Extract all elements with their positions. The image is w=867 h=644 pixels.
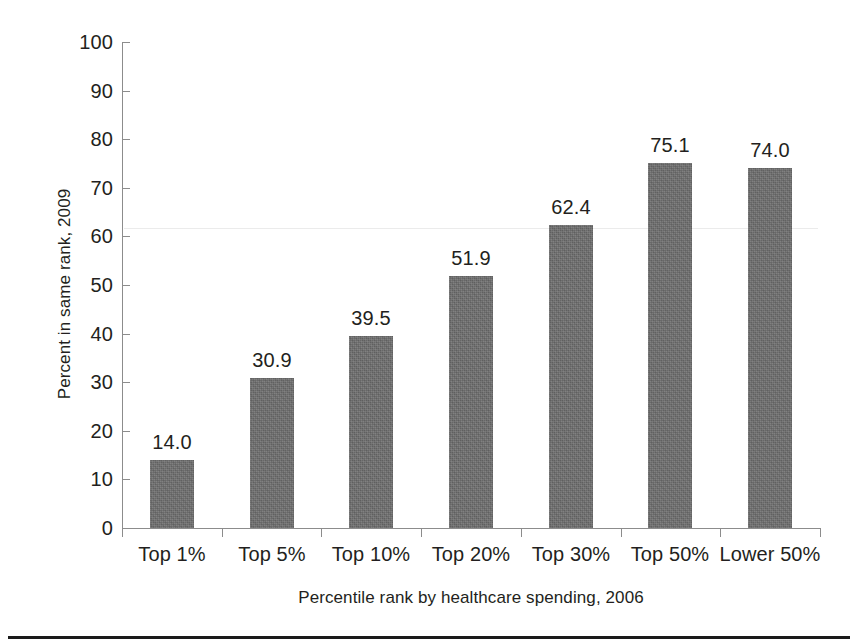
x-axis-tick	[421, 529, 422, 537]
x-axis-tick	[122, 529, 123, 537]
y-axis-tick	[123, 42, 130, 43]
y-axis-tick	[123, 528, 130, 529]
bottom-rule	[8, 636, 850, 639]
bar	[150, 460, 194, 528]
x-axis-tick	[720, 529, 721, 537]
bar-value-label: 14.0	[127, 432, 217, 452]
y-axis-tick-label: 90	[23, 81, 113, 101]
gridline-artifact	[124, 228, 818, 229]
bar	[250, 378, 294, 528]
y-axis-tick-label: 80	[23, 129, 113, 149]
y-axis-tick-label: 50	[23, 275, 113, 295]
x-axis-category-label: Lower 50%	[710, 543, 830, 565]
bar-value-label: 39.5	[326, 308, 416, 328]
y-axis-tick-label: 30	[23, 372, 113, 392]
bar	[648, 163, 692, 528]
y-axis-tick	[123, 188, 130, 189]
x-axis-title: Percentile rank by healthcare spending, …	[122, 588, 820, 608]
bar-chart-figure: Percent in same rank, 2009 0102030405060…	[0, 0, 867, 644]
x-axis-tick	[521, 529, 522, 537]
bar	[549, 225, 593, 528]
y-axis-tick-label: 70	[23, 178, 113, 198]
bar	[748, 168, 792, 528]
bar	[449, 276, 493, 528]
y-axis-tick	[123, 382, 130, 383]
x-axis-tick	[820, 529, 821, 537]
y-axis-tick-label: 100	[23, 32, 113, 52]
y-axis-tick	[123, 285, 130, 286]
x-axis-line	[122, 528, 821, 529]
bar-value-label: 30.9	[227, 350, 317, 370]
bar-value-label: 75.1	[625, 135, 715, 155]
x-axis-tick	[621, 529, 622, 537]
y-axis-tick-label: 60	[23, 226, 113, 246]
y-axis-tick	[123, 139, 130, 140]
x-axis-tick	[222, 529, 223, 537]
y-axis-tick-label: 0	[23, 518, 113, 538]
bar-value-label: 62.4	[526, 197, 616, 217]
bar-value-label: 51.9	[426, 248, 516, 268]
x-axis-tick	[321, 529, 322, 537]
y-axis-tick	[123, 334, 130, 335]
bar-value-label: 74.0	[725, 140, 815, 160]
y-axis-tick-label: 40	[23, 324, 113, 344]
bar	[349, 336, 393, 528]
y-axis-tick-label: 10	[23, 469, 113, 489]
y-axis-tick	[123, 479, 130, 480]
y-axis-tick	[123, 91, 130, 92]
y-axis-tick	[123, 236, 130, 237]
y-axis-tick-label: 20	[23, 421, 113, 441]
